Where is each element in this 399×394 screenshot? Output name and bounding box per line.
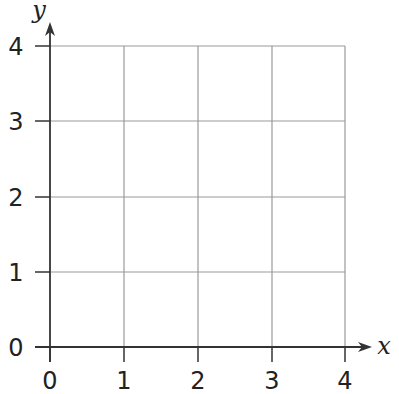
y-tick-label: 2 (8, 184, 23, 212)
y-tick-label: 0 (8, 334, 23, 362)
y-tick-label: 3 (8, 108, 23, 136)
x-tick-label: 1 (116, 367, 131, 394)
grid-lines (50, 46, 345, 347)
y-tick-labels: 4 3 2 1 0 (8, 33, 23, 362)
axes (35, 22, 372, 362)
y-tick-label: 1 (8, 259, 23, 287)
x-tick-label: 0 (42, 367, 57, 394)
x-tick-label: 3 (264, 367, 279, 394)
x-tick-labels: 0 1 2 3 4 (42, 367, 352, 394)
x-tick-label: 4 (337, 367, 352, 394)
coordinate-grid: y x 4 3 2 1 0 0 1 2 3 4 (0, 0, 399, 394)
y-axis-label: y (31, 0, 46, 24)
x-axis-label: x (377, 332, 391, 360)
y-tick-label: 4 (8, 33, 23, 61)
tick-marks (35, 46, 345, 362)
x-tick-label: 2 (190, 367, 205, 394)
